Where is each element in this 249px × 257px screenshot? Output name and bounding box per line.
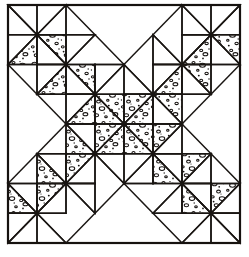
quilt-block-figure <box>0 0 249 257</box>
quilt-block-canvas <box>0 0 249 257</box>
